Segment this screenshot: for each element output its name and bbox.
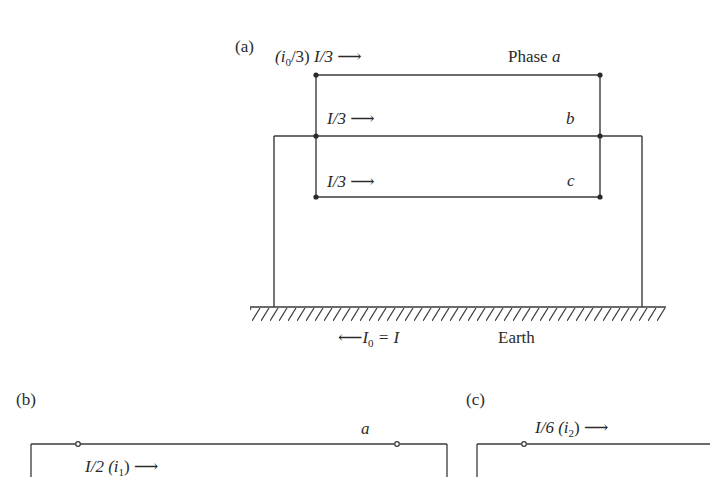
panel-c-current-label: I/6 (i2) ⟶ — [535, 419, 608, 439]
phase-b-label: b — [566, 110, 575, 127]
panel-c-wires — [477, 442, 710, 477]
phase-b-current-label: I/3 ⟶ — [327, 110, 375, 127]
phase-c-current-label: I/3 ⟶ — [327, 173, 375, 190]
phase-a-label: Phase a — [508, 48, 560, 65]
earth-label: Earth — [498, 329, 535, 346]
panel-b-phase-a-label: a — [361, 420, 370, 437]
arrow-left-icon: ⟵ — [338, 328, 362, 347]
arrow-right-icon: ⟶ — [134, 457, 158, 476]
earth-hatching — [250, 308, 666, 321]
node-open — [76, 442, 81, 447]
panel-c-label: (c) — [466, 391, 485, 408]
panel-b-current-label: I/2 (i1) ⟶ — [85, 458, 158, 477]
arrow-right-icon: ⟶ — [350, 172, 374, 191]
arrow-right-icon: ⟶ — [337, 47, 361, 66]
node-open — [395, 442, 400, 447]
panel-a-wires — [250, 75, 666, 307]
arrow-right-icon: ⟶ — [350, 109, 374, 128]
phase-a-current-label: (i0/3) I/3 ⟶ — [275, 48, 362, 68]
panel-b-label: (b) — [16, 391, 36, 408]
phase-c-label: c — [567, 172, 575, 189]
arrow-right-icon: ⟶ — [584, 418, 608, 437]
earth-current-label: ⟵I0 = I — [338, 329, 399, 349]
panel-a-label: (a) — [235, 38, 254, 55]
circuit-diagram — [0, 0, 710, 477]
node-open — [522, 442, 527, 447]
